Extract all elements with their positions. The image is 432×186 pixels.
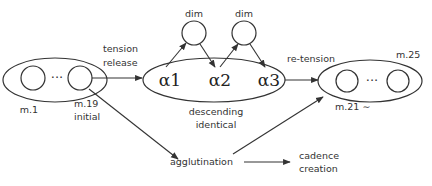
dim-node-2: [232, 21, 256, 45]
label-creation: creation: [299, 163, 338, 174]
label-descending: descending: [189, 106, 244, 117]
label-dim-1: dim: [185, 8, 203, 19]
node-alpha3: α3: [258, 70, 280, 90]
initial-group: ··· m.1 m.19 initial: [3, 58, 107, 122]
label-release: release: [103, 57, 138, 68]
arrow-dim2-to-alpha3: [250, 44, 265, 67]
descending-group: α1 α2 α3 descending identical: [143, 58, 285, 130]
label-m25: m.25: [396, 49, 420, 60]
node-m25: [387, 70, 409, 92]
label-m19: m.19: [74, 98, 98, 109]
arrow-dim1-to-alpha2: [200, 44, 215, 67]
node-alpha2: α2: [209, 70, 231, 90]
label-tension: tension: [103, 43, 138, 54]
node-m19: [68, 66, 92, 90]
node-m21: [336, 70, 358, 92]
node-m1: [21, 66, 45, 90]
arrow-m19-to-agglutination: [89, 89, 178, 159]
node-alpha1: α1: [159, 70, 181, 90]
label-re-tension: re-tension: [287, 53, 335, 64]
arrow-agglutination-to-final: [233, 97, 323, 154]
label-m1: m.1: [20, 104, 38, 115]
dim-node-1: [182, 21, 206, 45]
initial-ellipsis: ···: [51, 70, 63, 85]
label-cadence: cadence: [299, 150, 339, 161]
arrow-alpha1-to-dim1: [166, 43, 186, 67]
label-identical: identical: [196, 119, 237, 130]
arrow-alpha2-to-dim2: [220, 44, 238, 67]
motif-flow-diagram: ··· m.1 m.19 initial tension release α1 …: [0, 0, 432, 186]
final-ellipsis: ···: [366, 73, 378, 88]
label-dim-2: dim: [235, 8, 253, 19]
label-m21: m.21 ∼: [335, 101, 370, 112]
label-initial: initial: [74, 111, 100, 122]
label-agglutination: agglutination: [170, 156, 233, 167]
